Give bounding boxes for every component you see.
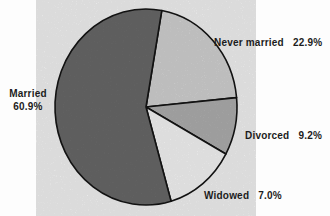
- slice-label-never-married: Never married22.9%: [214, 36, 322, 49]
- slice-value-widowed: 7.0%: [258, 190, 282, 201]
- slice-label-widowed: Widowed7.0%: [204, 189, 282, 202]
- slice-label-divorced: Divorced9.2%: [245, 129, 322, 142]
- slice-name-never-married: Never married: [214, 37, 284, 48]
- slice-name-married: Married: [6, 87, 50, 100]
- slice-name-divorced: Divorced: [245, 130, 289, 141]
- slice-label-married: Married60.9%: [6, 87, 50, 113]
- slice-value-never-married: 22.9%: [293, 37, 322, 48]
- slice-value-married: 60.9%: [6, 100, 50, 113]
- slice-value-divorced: 9.2%: [298, 130, 322, 141]
- pie-chart-figure: Never married22.9% Married60.9% Divorced…: [0, 0, 330, 216]
- pie-slices: [55, 9, 237, 205]
- slice-name-widowed: Widowed: [204, 190, 249, 201]
